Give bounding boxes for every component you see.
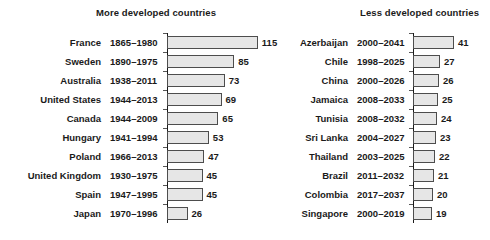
bar-row: Jamaica2008–203325 (268, 90, 490, 109)
period-label: 1998–2025 (357, 52, 411, 71)
period-label: 2008–2032 (357, 109, 411, 128)
bar-row: Brazil2011–203221 (268, 166, 490, 185)
bar-value-label: 45 (207, 185, 218, 204)
period-label: 1865–1980 (110, 33, 166, 52)
bar-row: Canada1944–200965 (0, 109, 268, 128)
period-label: 1930–1975 (110, 166, 166, 185)
bar (413, 207, 432, 220)
panel-more-developed: More developed countries France1865–1980… (0, 0, 268, 240)
bar-value-label: 69 (226, 90, 237, 109)
category-label: Tunisia (268, 109, 348, 128)
period-label: 1966–2013 (110, 147, 166, 166)
category-label: Hungary (0, 128, 101, 147)
category-label: Jamaica (268, 90, 348, 109)
period-label: 1941–1994 (110, 128, 166, 147)
panel-title-more-developed: More developed countries (96, 7, 216, 18)
category-label: Japan (0, 204, 101, 223)
bar (413, 131, 436, 144)
bar-value-label: 23 (440, 128, 451, 147)
bar-row: Azerbaijan2000–204141 (268, 33, 490, 52)
bar-row: Singapore2000–201919 (268, 204, 490, 223)
period-label: 2000–2041 (357, 33, 411, 52)
category-label: Azerbaijan (268, 33, 348, 52)
bar (167, 131, 209, 144)
bar-row: Tunisia2008–203224 (268, 109, 490, 128)
period-label: 1944–2013 (110, 90, 166, 109)
bar (167, 207, 188, 220)
category-label: Sri Lanka (268, 128, 348, 147)
category-label: United States (0, 90, 101, 109)
bar-value-label: 20 (437, 185, 448, 204)
category-label: Thailand (268, 147, 348, 166)
bar (167, 112, 218, 125)
category-label: United Kingdom (0, 166, 101, 185)
category-label: Poland (0, 147, 101, 166)
bar (167, 169, 203, 182)
bar (413, 74, 439, 87)
bar-value-label: 22 (439, 147, 450, 166)
bar-row: Sweden1890–197585 (0, 52, 268, 71)
bar (167, 188, 203, 201)
bar (167, 93, 222, 106)
bar-row: Colombia2017–203720 (268, 185, 490, 204)
bar-row: Poland1966–201347 (0, 147, 268, 166)
period-label: 1890–1975 (110, 52, 166, 71)
bar-value-label: 21 (438, 166, 449, 185)
bar-value-label: 73 (229, 71, 240, 90)
category-label: Brazil (268, 166, 348, 185)
period-label: 2011–2032 (357, 166, 411, 185)
panel-title-less-developed: Less developed countries (360, 7, 479, 18)
bar (413, 36, 454, 49)
bar (413, 188, 433, 201)
period-label: 2003–2025 (357, 147, 411, 166)
bar-value-label: 47 (208, 147, 219, 166)
bar-value-label: 25 (442, 90, 453, 109)
period-label: 2017–2037 (357, 185, 411, 204)
bar-value-label: 26 (192, 204, 203, 223)
bar (413, 93, 438, 106)
period-label: 2008–2033 (357, 90, 411, 109)
bar-row: China2000–202626 (268, 71, 490, 90)
period-label: 1970–1996 (110, 204, 166, 223)
bar (167, 150, 204, 163)
period-label: 2000–2026 (357, 71, 411, 90)
bar-row: France1865–1980115 (0, 33, 268, 52)
bar-value-label: 19 (436, 204, 447, 223)
bar-value-label: 85 (238, 52, 249, 71)
bar (167, 36, 258, 49)
category-label: France (0, 33, 101, 52)
category-label: China (268, 71, 348, 90)
category-label: Sweden (0, 52, 101, 71)
bar-value-label: 41 (458, 33, 469, 52)
category-label: Colombia (268, 185, 348, 204)
bar (167, 74, 225, 87)
category-label: Chile (268, 52, 348, 71)
bar-value-label: 27 (444, 52, 455, 71)
period-label: 2004–2027 (357, 128, 411, 147)
period-label: 1947–1995 (110, 185, 166, 204)
category-label: Australia (0, 71, 101, 90)
bar (413, 169, 434, 182)
bar (413, 150, 435, 163)
bar-value-label: 45 (207, 166, 218, 185)
bar-row: Sri Lanka2004–202723 (268, 128, 490, 147)
bar-row: United States1944–201369 (0, 90, 268, 109)
bar-row: Hungary1941–199453 (0, 128, 268, 147)
chart-figure: More developed countries France1865–1980… (0, 0, 490, 240)
bar-row: United Kingdom1930–197545 (0, 166, 268, 185)
category-label: Singapore (268, 204, 348, 223)
panel-less-developed: Less developed countries Azerbaijan2000–… (268, 0, 490, 240)
period-label: 1944–2009 (110, 109, 166, 128)
bar-value-label: 65 (222, 109, 233, 128)
period-label: 1938–2011 (110, 71, 166, 90)
category-label: Canada (0, 109, 101, 128)
bar-value-label: 53 (213, 128, 224, 147)
bar-row: Chile1998–202527 (268, 52, 490, 71)
bar-value-label: 26 (443, 71, 454, 90)
category-label: Spain (0, 185, 101, 204)
bar-row: Japan1970–199626 (0, 204, 268, 223)
bar (167, 55, 234, 68)
bar-row: Australia1938–201173 (0, 71, 268, 90)
bar (413, 55, 440, 68)
bar-row: Spain1947–199545 (0, 185, 268, 204)
